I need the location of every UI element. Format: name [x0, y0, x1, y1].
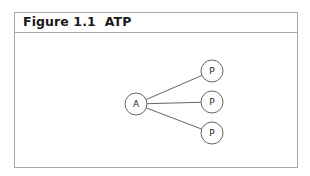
- node-P2: P: [201, 91, 223, 113]
- node-label: P: [209, 97, 215, 107]
- node-P1: P: [201, 60, 223, 82]
- edge-A-P1: [146, 75, 202, 99]
- edge-A-P2: [147, 102, 201, 103]
- node-P3: P: [201, 122, 223, 144]
- atp-diagram: APPP: [0, 0, 310, 176]
- diagram-edges: [146, 75, 202, 129]
- node-label: P: [209, 128, 215, 138]
- node-label: A: [133, 99, 140, 109]
- edge-A-P3: [146, 108, 201, 129]
- node-A: A: [125, 93, 147, 115]
- diagram-nodes: APPP: [125, 60, 223, 144]
- node-label: P: [209, 66, 215, 76]
